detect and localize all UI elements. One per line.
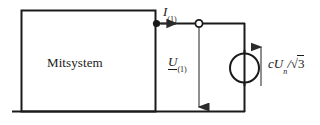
current-label: I(1) xyxy=(163,5,177,22)
schematic-canvas: Mitsystem I(1) U(1) cUn/√3 xyxy=(0,0,320,125)
source-label: cUn/√3 xyxy=(268,57,304,74)
voltage-label: U(1) xyxy=(168,55,187,72)
system-block-label: Mitsystem xyxy=(47,56,103,69)
source-prefix: cU xyxy=(268,56,283,71)
source-radicand: 3 xyxy=(297,55,305,71)
junction-dot xyxy=(153,20,160,27)
voltage-subscript: (1) xyxy=(177,65,186,74)
terminal-node xyxy=(195,20,202,27)
source-subscript: n xyxy=(283,67,287,76)
current-subscript: (1) xyxy=(167,15,176,24)
voltage-symbol: U xyxy=(168,54,177,70)
